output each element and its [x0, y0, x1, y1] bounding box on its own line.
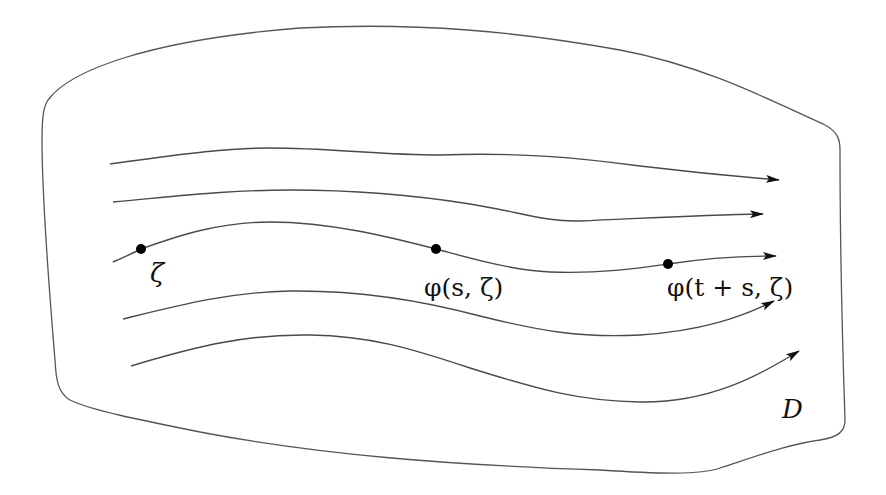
- point-phi-ts: [663, 259, 673, 269]
- label-zeta: ζ: [150, 258, 166, 288]
- label-phi-ts: φ(t + s, ζ): [667, 273, 793, 302]
- flow-line-3: [113, 222, 776, 272]
- point-zeta: [136, 244, 146, 254]
- flow-line-5: [131, 335, 799, 402]
- flow-line-1: [110, 148, 779, 180]
- flow-diagram: ζ φ(s, ζ) φ(t + s, ζ) D: [0, 0, 886, 495]
- label-domain-d: D: [781, 394, 803, 424]
- point-phi-s: [431, 244, 441, 254]
- flow-line-2: [113, 190, 763, 221]
- domain-boundary: [42, 26, 845, 473]
- label-phi-s: φ(s, ζ): [424, 273, 503, 302]
